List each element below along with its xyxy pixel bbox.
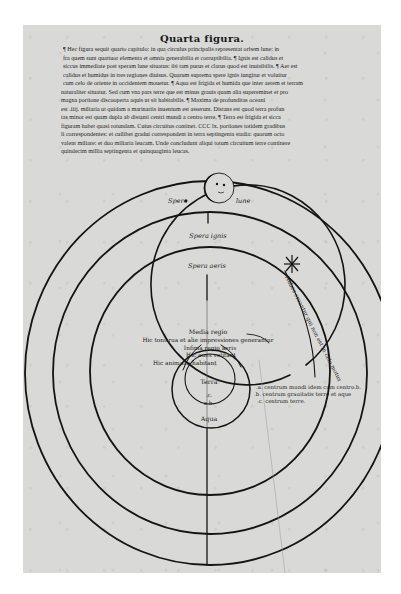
label-media-regio: Media regio — [189, 328, 228, 336]
scanned-page: Quarta figura. ¶ Hec figura sequit quart… — [23, 25, 381, 573]
label-animals: Hic animalia habitant — [153, 360, 217, 366]
star-icon — [284, 255, 300, 273]
legend-c: .c. centrum terre. — [257, 398, 306, 404]
label-terra: Terra — [200, 378, 217, 385]
label-point-ab: a.b. — [204, 400, 215, 406]
legend-a: .a. centrum mundi idem cum centro.b. — [256, 384, 361, 390]
cosmological-diagram: Spere lune Spera ignis Spera aeris Media… — [23, 25, 381, 573]
label-spera-ignis: Spera ignis — [189, 232, 227, 240]
label-spera-aeris: Spera aeris — [188, 262, 226, 270]
label-lower-region: Infima regio aeris — [184, 345, 236, 352]
moon-sphere-inner-ring — [53, 212, 367, 534]
label-upper-air: Nubes creantur qui non est in celo motus — [283, 275, 343, 383]
legend-b: .b. centrum grauitatis terre et aque — [254, 391, 351, 398]
moon-icon — [204, 173, 234, 203]
label-thunder: Hic tonitrua et alie impressiones genera… — [142, 337, 273, 344]
label-lune: lune — [236, 197, 250, 205]
label-point-c: .c. — [206, 392, 213, 398]
label-aqua: Aqua — [200, 415, 218, 423]
label-spere: Spere — [168, 197, 188, 205]
label-birds: Hic aues volitant — [186, 352, 236, 358]
